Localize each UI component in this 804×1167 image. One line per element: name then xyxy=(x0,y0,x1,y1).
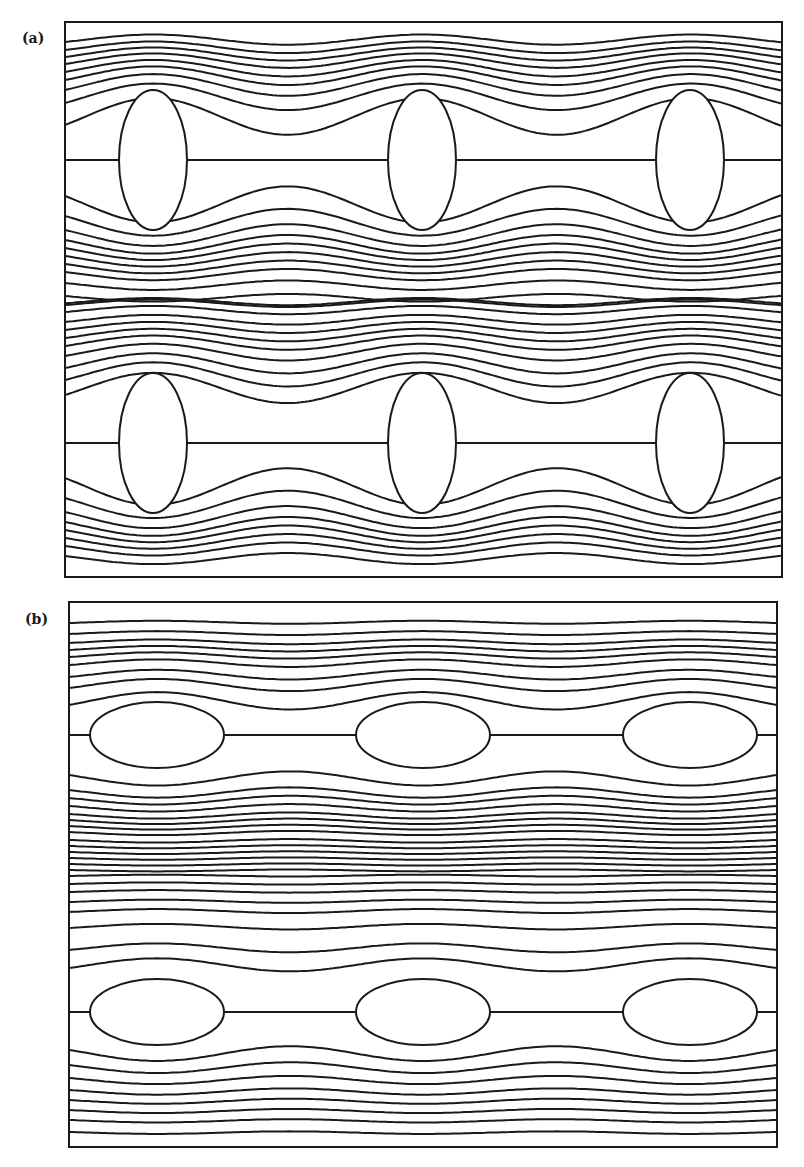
streamline xyxy=(69,909,777,913)
panel-b-streamlines xyxy=(69,602,777,1147)
streamline xyxy=(69,900,777,903)
streamline xyxy=(69,831,777,835)
streamline xyxy=(69,851,777,854)
streamline xyxy=(65,344,781,361)
elliptical-obstacle xyxy=(356,979,490,1045)
streamline xyxy=(69,771,777,785)
streamline xyxy=(69,1046,777,1061)
panel-a-streamlines xyxy=(65,22,782,577)
streamline xyxy=(69,659,777,667)
streamline xyxy=(69,864,777,866)
streamline xyxy=(69,875,777,877)
elliptical-obstacle xyxy=(119,90,187,230)
streamline-figure xyxy=(0,0,804,1167)
elliptical-obstacle xyxy=(90,979,224,1045)
elliptical-obstacle xyxy=(388,90,456,230)
streamline xyxy=(69,652,777,658)
elliptical-obstacle xyxy=(356,702,490,768)
streamline xyxy=(69,857,777,859)
streamline xyxy=(69,1131,777,1134)
elliptical-obstacle xyxy=(119,373,187,513)
streamline xyxy=(69,1088,777,1094)
streamline xyxy=(69,924,777,930)
streamline xyxy=(69,631,777,635)
elliptical-obstacle xyxy=(656,90,724,230)
streamline xyxy=(69,646,777,651)
streamline xyxy=(69,890,777,893)
streamline xyxy=(65,35,781,45)
streamline xyxy=(65,336,781,350)
streamline xyxy=(69,839,777,843)
streamline xyxy=(69,825,777,830)
elliptical-obstacle xyxy=(623,702,757,768)
streamline xyxy=(65,281,781,290)
streamline xyxy=(69,943,777,952)
streamline xyxy=(69,1109,777,1113)
elliptical-obstacle xyxy=(623,979,757,1045)
figure-caption xyxy=(30,1160,790,1167)
elliptical-obstacle xyxy=(656,373,724,513)
streamline xyxy=(69,1119,777,1122)
elliptical-obstacle xyxy=(388,373,456,513)
streamline xyxy=(69,640,777,645)
streamline xyxy=(69,958,777,971)
streamline xyxy=(69,1099,777,1104)
streamline xyxy=(69,787,777,797)
streamline xyxy=(69,1076,777,1084)
streamline xyxy=(69,621,777,624)
elliptical-obstacle xyxy=(90,702,224,768)
streamline xyxy=(69,882,777,884)
streamline xyxy=(69,845,777,848)
streamline xyxy=(69,812,777,818)
streamline xyxy=(65,269,781,280)
streamline xyxy=(65,306,781,314)
streamline xyxy=(65,322,781,333)
streamline xyxy=(69,679,777,691)
streamline xyxy=(69,870,777,872)
streamline xyxy=(69,1062,777,1073)
